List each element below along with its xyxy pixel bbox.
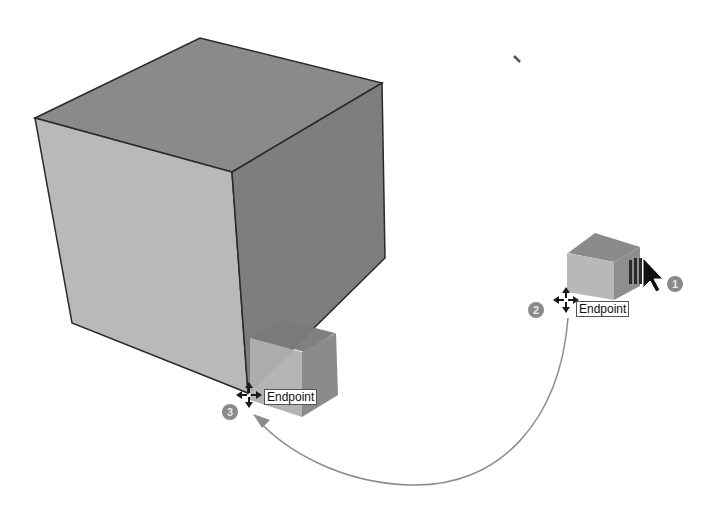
step-marker-1: 1 [667,276,683,292]
stray-mark [514,56,520,62]
step-marker-3: 3 [222,404,238,420]
endpoint-tooltip-source: Endpoint [576,301,629,317]
modeling-viewport[interactable] [0,0,704,506]
arc-arrowhead-icon [253,414,270,428]
copied-cube-front-face [250,338,302,417]
step-marker-2: 2 [528,302,544,318]
endpoint-tooltip-destination: Endpoint [264,389,317,405]
